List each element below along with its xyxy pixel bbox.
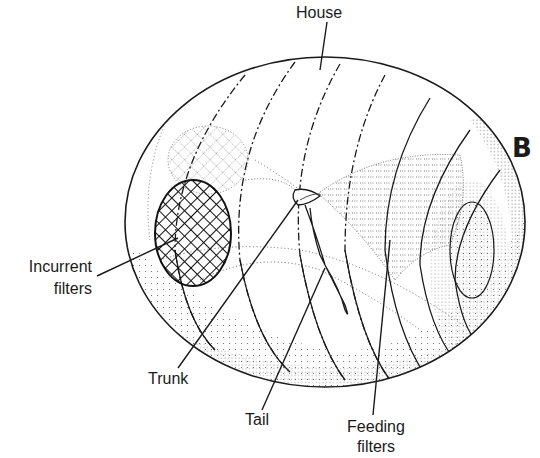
incurrent-filter-front xyxy=(155,180,231,286)
label-incurrent-filters-line1: Incurrent xyxy=(8,256,92,278)
label-tail: Tail xyxy=(245,409,269,431)
label-feeding-filters-line1: Feeding xyxy=(340,416,412,438)
label-incurrent-filters-line2: filters xyxy=(8,278,92,300)
label-trunk: Trunk xyxy=(148,368,188,390)
label-house: House xyxy=(296,2,342,24)
appendicularian-house-diagram xyxy=(0,0,540,458)
panel-letter: B xyxy=(512,133,532,163)
label-feeding-filters-line2: filters xyxy=(340,436,412,458)
